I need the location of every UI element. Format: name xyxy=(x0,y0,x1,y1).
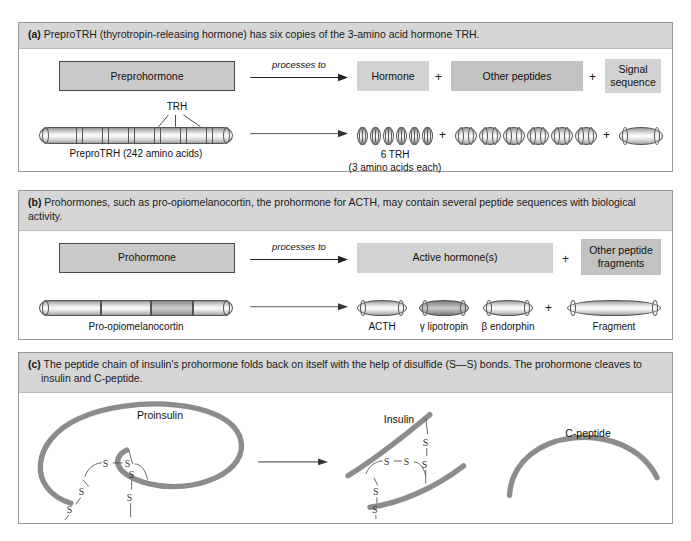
trh-cylinder-2 xyxy=(370,127,381,145)
prohormone-box: Prohormone xyxy=(59,243,235,273)
s-atom-i1: S xyxy=(384,456,390,467)
panel-a: (a) PreproTRH (thyrotropin-releasing hor… xyxy=(18,22,673,172)
trh-cylinder-6 xyxy=(422,127,433,145)
processes-to-label-a: processes to xyxy=(272,59,326,70)
s-atom-i2: S xyxy=(404,456,410,467)
pomc-caption: Pro-opiomelanocortin xyxy=(33,321,239,332)
plus-a3: + xyxy=(439,128,446,142)
preprohormone-box: Preprohormone xyxy=(59,61,235,91)
acth-cylinder xyxy=(357,300,407,316)
panel-a-header-text: PreproTRH (thyrotropin-releasing hormone… xyxy=(44,28,480,40)
c-peptide-chain xyxy=(509,437,657,495)
gamma-lipotropin-label: γ lipotropin xyxy=(409,321,479,332)
signal-sequence-box: Signal sequence xyxy=(605,59,661,93)
s-atom-p4: S xyxy=(67,504,73,515)
panel-c-tag: (c) xyxy=(28,358,41,370)
s-atom-i4: S xyxy=(372,504,378,515)
fragment-cylinder xyxy=(567,300,661,316)
trh-segment-6 xyxy=(206,127,213,144)
s-atom-p3: S xyxy=(79,486,85,497)
other-peptides-box: Other peptides xyxy=(451,61,583,91)
beta-endorphin-cylinder xyxy=(483,300,533,316)
trh-caption-line1: 6 TRH xyxy=(349,149,441,160)
s-atom-i3: S xyxy=(373,486,379,497)
preproTRH-bar xyxy=(39,127,233,144)
s-atom-p1: S xyxy=(103,458,109,469)
plus-a2: + xyxy=(589,70,596,84)
figure-root: (a) PreproTRH (thyrotropin-releasing hor… xyxy=(0,0,691,541)
panel-b-tag: (b) xyxy=(28,196,41,208)
processes-to-label-b: processes to xyxy=(272,241,326,252)
insulin-label: Insulin xyxy=(364,413,434,425)
gamma-lipotropin-cylinder xyxy=(419,300,469,316)
trh-cylinder-4 xyxy=(396,127,407,145)
panel-c-header: (c) The peptide chain of insulin's proho… xyxy=(19,353,672,393)
panel-a-header: (a) PreproTRH (thyrotropin-releasing hor… xyxy=(19,23,672,49)
insulin-chains xyxy=(348,414,464,507)
plus-b2: + xyxy=(545,301,552,315)
pomc-cap-right xyxy=(223,300,230,316)
trh-caption-line2: (3 amino acids each) xyxy=(331,162,459,173)
other-peptide-cylinder-6 xyxy=(575,127,597,145)
active-hormones-box: Active hormone(s) xyxy=(357,243,553,273)
other-peptides-box-label: Other peptides xyxy=(483,70,552,83)
acth-label: ACTH xyxy=(357,321,407,332)
plus-a1: + xyxy=(435,70,442,84)
other-peptide-cylinder-5 xyxy=(551,127,573,145)
pomc-divider-3 xyxy=(192,300,194,316)
other-peptide-cylinder-1 xyxy=(455,127,477,145)
trh-segment-4 xyxy=(154,127,161,144)
panel-b-header-text: Prohormones, such as pro-opiomelanocorti… xyxy=(28,196,636,222)
trh-cylinder-1 xyxy=(357,127,368,145)
s-atom-p5: S xyxy=(129,468,135,479)
proinsulin-label: Proinsulin xyxy=(115,409,205,421)
cleavage-arrow xyxy=(258,458,328,465)
other-peptide-fragments-box-label: Other peptide fragments xyxy=(581,244,661,269)
insulin-disulfide-bonds: S S S S S S xyxy=(366,418,428,518)
panel-b-header: (b) Prohormones, such as pro-opiomelanoc… xyxy=(19,191,672,231)
panel-b: (b) Prohormones, such as pro-opiomelanoc… xyxy=(18,190,673,340)
bar-cap-right xyxy=(223,127,230,144)
pomc-divider-1 xyxy=(100,300,102,316)
signal-sequence-cylinder xyxy=(619,127,663,145)
panel-c-header-text-line1: The peptide chain of insulin's prohormon… xyxy=(44,358,642,370)
prohormone-box-label: Prohormone xyxy=(118,251,176,264)
beta-endorphin-label: β endorphin xyxy=(473,321,543,332)
trh-cylinder-5 xyxy=(409,127,420,145)
panel-a-tag: (a) xyxy=(28,28,41,40)
panel-b-body: Prohormone processes to Active hormone(s… xyxy=(19,231,672,353)
s-atom-p6: S xyxy=(127,492,133,503)
plus-b1: + xyxy=(562,252,569,266)
panel-c: (c) The peptide chain of insulin's proho… xyxy=(18,352,673,524)
trh-cylinder-3 xyxy=(383,127,394,145)
other-peptide-cylinder-3 xyxy=(503,127,525,145)
hormone-box: Hormone xyxy=(357,61,429,91)
trh-segment-3 xyxy=(128,127,135,144)
active-hormones-box-label: Active hormone(s) xyxy=(412,251,497,264)
trh-segment-1 xyxy=(76,127,83,144)
trh-callout-label: TRH xyxy=(160,101,194,112)
preprohormone-box-label: Preprohormone xyxy=(111,70,184,83)
panel-c-header-text-line2: insulin and C-peptide. xyxy=(28,372,663,386)
preproTRH-caption: PreproTRH (242 amino acids) xyxy=(29,148,243,159)
hormone-box-label: Hormone xyxy=(371,70,414,83)
panel-c-body: S S S S S S xyxy=(19,393,672,523)
other-peptide-cylinder-2 xyxy=(479,127,501,145)
trh-segment-2 xyxy=(102,127,109,144)
bar-cap-left xyxy=(42,127,49,144)
plus-a4: + xyxy=(603,128,610,142)
c-peptide-label: C-peptide xyxy=(545,427,631,439)
other-peptide-cylinder-4 xyxy=(527,127,549,145)
panel-a-body: Preprohormone processes to Hormone + xyxy=(19,49,672,171)
pomc-gamma-lipotropin-region xyxy=(151,301,192,315)
pomc-cap-left xyxy=(42,300,49,316)
s-atom-p2: S xyxy=(125,458,131,469)
other-peptide-fragments-box: Other peptide fragments xyxy=(581,239,661,275)
s-atom-i5: S xyxy=(423,437,429,448)
fragment-label: Fragment xyxy=(567,321,661,332)
pomc-bar xyxy=(39,300,233,316)
s-atom-i6: S xyxy=(422,459,428,470)
signal-sequence-box-label: Signal sequence xyxy=(605,63,661,88)
trh-segment-5 xyxy=(180,127,187,144)
proinsulin-disulfide-bonds: S S S S S S xyxy=(65,450,148,520)
